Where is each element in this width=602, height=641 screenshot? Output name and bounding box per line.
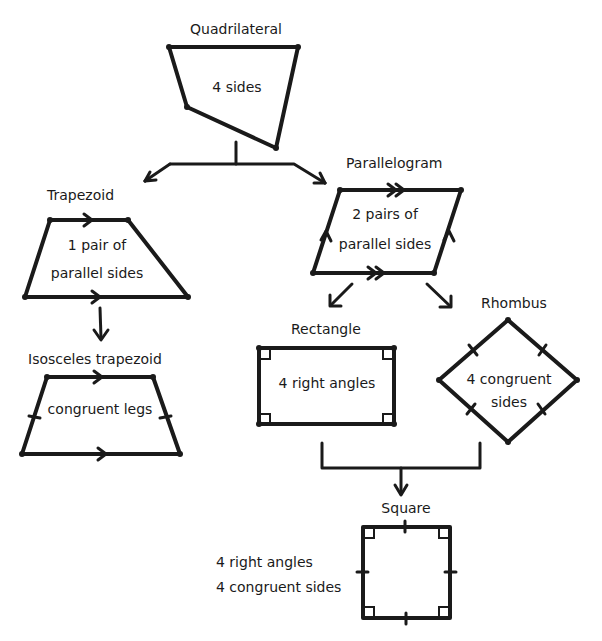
right-angle-icon bbox=[260, 349, 270, 359]
right-angle-icon bbox=[260, 414, 270, 423]
rhombus-desc-line1: 4 congruent bbox=[467, 370, 552, 388]
isosceles-trapezoid-title: Isosceles trapezoid bbox=[28, 350, 162, 368]
right-angle-icon bbox=[383, 349, 393, 359]
right-angle-icon bbox=[383, 414, 393, 423]
branch-connector-top bbox=[145, 142, 325, 183]
arrow-trapezoid-to-isosceles bbox=[94, 308, 108, 340]
arrow-parallelogram-to-rectangle bbox=[330, 284, 352, 306]
parallelogram-desc-line1: 2 pairs of bbox=[352, 205, 418, 223]
quadrilateral-shape bbox=[166, 44, 301, 151]
parallelogram-desc-line2: parallel sides bbox=[339, 235, 432, 253]
right-angle-icon bbox=[439, 528, 449, 538]
quadrilateral-hierarchy-diagram: Quadrilateral 4 sides Trapezoid 1 pair o… bbox=[0, 0, 602, 641]
trapezoid-title: Trapezoid bbox=[47, 186, 114, 204]
parallelogram-shape bbox=[310, 184, 464, 279]
parallelogram-title: Parallelogram bbox=[346, 154, 442, 172]
square-title: Square bbox=[381, 499, 430, 517]
quadrilateral-desc: 4 sides bbox=[212, 78, 261, 96]
rhombus-title: Rhombus bbox=[481, 294, 547, 312]
trapezoid-desc-line2: parallel sides bbox=[51, 264, 144, 282]
congruent-tick-icon bbox=[29, 416, 40, 418]
arrow-parallelogram-to-rhombus bbox=[427, 284, 451, 307]
quadrilateral-title: Quadrilateral bbox=[190, 20, 282, 38]
trapezoid-shape bbox=[22, 214, 191, 303]
branch-connector-bottom bbox=[322, 443, 480, 495]
rectangle-desc: 4 right angles bbox=[279, 374, 376, 392]
square-desc-line1: 4 right angles bbox=[216, 553, 313, 571]
right-angle-icon bbox=[364, 607, 374, 617]
rhombus-desc-line2: sides bbox=[491, 393, 527, 411]
trapezoid-desc-line1: 1 pair of bbox=[68, 236, 126, 254]
congruent-tick-icon bbox=[160, 416, 171, 418]
rectangle-title: Rectangle bbox=[291, 320, 361, 338]
square-desc-line2: 4 congruent sides bbox=[216, 578, 341, 596]
right-angle-icon bbox=[364, 528, 374, 538]
square-shape bbox=[357, 521, 456, 624]
right-angle-icon bbox=[439, 607, 449, 617]
isosceles-trapezoid-desc: congruent legs bbox=[48, 400, 153, 418]
